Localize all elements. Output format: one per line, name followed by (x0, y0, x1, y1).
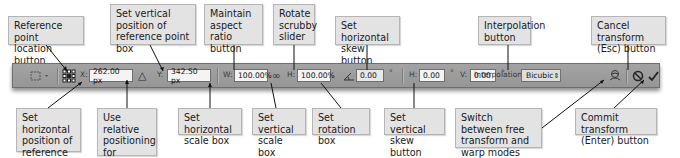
x-position-value: 262.00 px (93, 67, 129, 85)
select-arrows-icon: ⇕ (553, 72, 559, 80)
cancel-transform-button[interactable] (632, 68, 644, 83)
rotate-angle-icon (343, 70, 355, 82)
callout-horizontal-skew: Set horizontal skew button (335, 16, 400, 45)
y-position-value: 342.50 px (171, 67, 207, 85)
tool-preset-picker[interactable] (29, 68, 51, 83)
degree-symbol: ° (389, 68, 393, 77)
horizontal-scale-value: 100.00% (238, 71, 272, 80)
callout-vertical-position: Set vertical position of reference point… (110, 4, 196, 45)
h-skew-label: H: (409, 70, 417, 79)
warp-mode-icon (608, 69, 622, 82)
separator (57, 68, 59, 84)
separator (402, 68, 404, 84)
callout-horizontal-scale: Set horizontal scale box (178, 108, 242, 135)
rotate-scrubby-slider[interactable] (343, 68, 355, 83)
callout-switch-warp: Switch between free transform and warp m… (455, 108, 542, 148)
checkmark-icon (647, 70, 659, 82)
vertical-scale-input[interactable]: 100.00% (297, 69, 331, 82)
h-label: H: (287, 70, 295, 79)
horizontal-scale-input[interactable]: 100.00% (234, 69, 268, 82)
callout-maintain-aspect: Maintain aspect ratio button (204, 4, 263, 45)
v-skew-label: V: (460, 70, 467, 79)
reference-point-grid-icon (62, 69, 76, 83)
callout-vertical-skew: Set vertical skew button (384, 108, 445, 135)
separator (626, 68, 628, 84)
rotation-input[interactable]: 0.00 (356, 69, 384, 82)
callout-vertical-scale: Set vertical scale box (252, 108, 306, 135)
interpolation-select[interactable]: Bicubic⇕ (521, 69, 561, 82)
y-label: Y: (157, 70, 163, 79)
interpolation-value: Bicubic (526, 71, 553, 80)
maintain-aspect-ratio-button[interactable]: ∞ (272, 68, 284, 83)
free-transform-options-bar: X: 262.00 px △ Y: 342.50 px W: 100.00% ∞… (12, 63, 660, 88)
horizontal-skew-input[interactable]: 0.00 (419, 69, 445, 82)
degree-symbol: ° (450, 68, 454, 77)
vertical-scale-value: 100.00% (301, 71, 335, 80)
link-icon: ∞ (272, 70, 280, 81)
separator (217, 68, 219, 84)
y-position-input[interactable]: 342.50 px (167, 69, 211, 82)
callout-horizontal-position: Set horizontal position of reference poi… (16, 108, 81, 152)
callout-interpolation: Interpolation button (478, 16, 531, 45)
callout-cancel-transform: Cancel transform (Esc) button (591, 16, 666, 45)
callout-reference-point-location: Reference point location button (8, 16, 84, 45)
rotation-value: 0.00 (360, 71, 377, 80)
callout-rotate-scrubby: Rotate scrubby slider (273, 4, 315, 45)
warp-mode-toggle-button[interactable] (608, 68, 622, 83)
callout-commit-transform: Commit transform (Enter) button (575, 108, 657, 135)
transform-tool-icon (29, 69, 51, 83)
cancel-icon (632, 70, 644, 82)
x-position-input[interactable]: 262.00 px (89, 69, 133, 82)
x-label: X: (80, 70, 88, 79)
w-label: W: (223, 70, 233, 79)
relative-positioning-button[interactable]: △ (138, 68, 148, 83)
horizontal-skew-value: 0.00 (423, 71, 440, 80)
callout-rotation: Set rotation box (312, 108, 370, 135)
interpolation-label: Interpolation: (474, 70, 525, 79)
reference-point-location-button[interactable] (62, 68, 76, 83)
callout-relative-positioning: Use relative positioning for reference p… (97, 108, 157, 156)
commit-transform-button[interactable] (647, 68, 659, 83)
relative-positioning-icon: △ (138, 69, 146, 82)
